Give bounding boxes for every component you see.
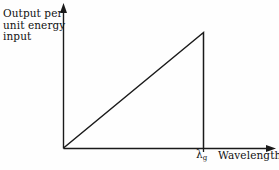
data-curve <box>64 33 204 149</box>
y-axis-label: Output per unit energy input <box>3 8 65 43</box>
x-axis-tick-label-lambda-g: λg <box>196 149 207 165</box>
y-axis-label-line-1: Output per <box>3 8 65 20</box>
lambda-symbol: λ <box>196 148 203 160</box>
x-axis-label: Wavelength <box>218 150 279 162</box>
chart-figure: Output per unit energy input λg Waveleng… <box>0 0 279 170</box>
lambda-subscript: g <box>203 154 207 162</box>
y-axis-label-line-3: input <box>3 31 65 43</box>
